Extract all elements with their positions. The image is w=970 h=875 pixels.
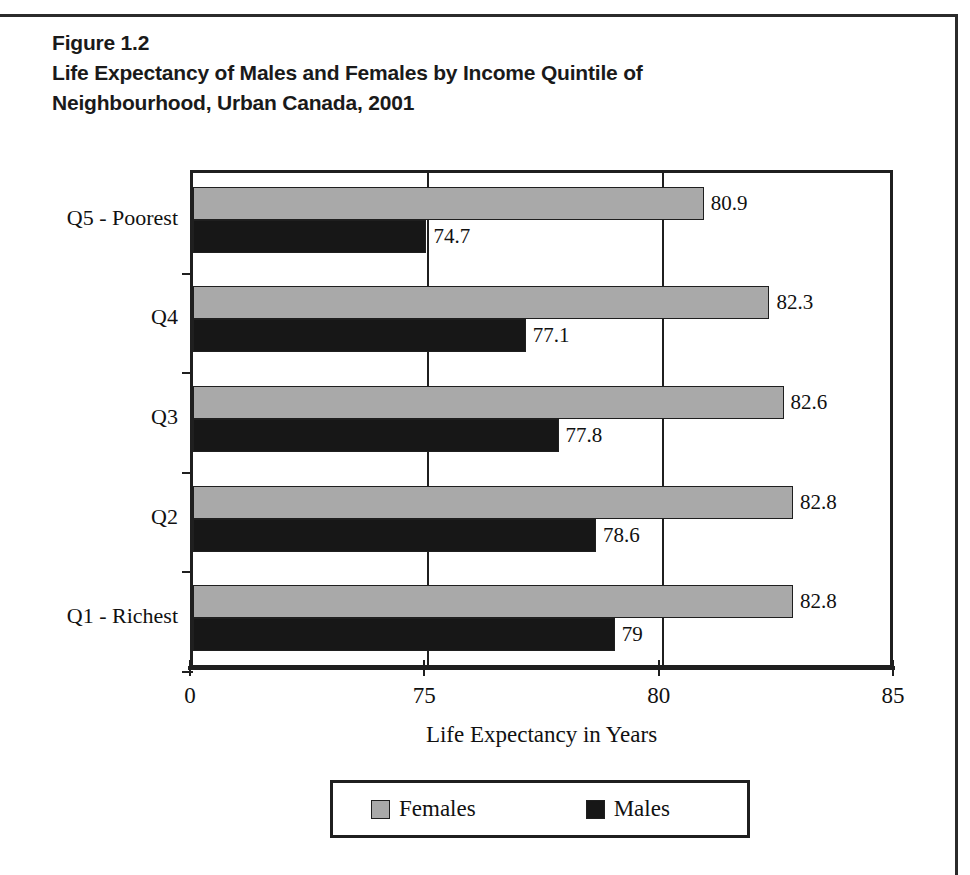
legend: Females Males bbox=[330, 780, 750, 838]
plot-frame: 80.974.782.377.182.677.882.878.682.879 bbox=[190, 170, 893, 668]
bar-male-5 bbox=[193, 618, 615, 651]
legend-label-males: Males bbox=[614, 796, 670, 822]
bar-value-male-5: 79 bbox=[615, 618, 643, 651]
y-axis-label-5: Q1 - Richest bbox=[0, 603, 178, 629]
bar-male-2 bbox=[193, 319, 526, 352]
x-tick-85 bbox=[892, 660, 894, 676]
y-axis-label-1: Q5 - Poorest bbox=[0, 205, 178, 231]
bar-value-female-3: 82.6 bbox=[784, 386, 828, 419]
bar-value-female-4: 82.8 bbox=[793, 486, 837, 519]
x-axis-line bbox=[188, 666, 895, 670]
y-tick-3 bbox=[182, 472, 193, 474]
y-tick-2 bbox=[182, 372, 193, 374]
bar-value-female-1: 80.9 bbox=[704, 187, 748, 220]
y-axis-label-3: Q3 bbox=[0, 404, 178, 430]
bar-value-male-3: 77.8 bbox=[559, 419, 603, 452]
y-tick-1 bbox=[182, 273, 193, 275]
bar-value-male-4: 78.6 bbox=[596, 519, 640, 552]
legend-item-females: Females bbox=[371, 796, 476, 822]
x-tick-label-85: 85 bbox=[882, 683, 905, 709]
bar-female-1 bbox=[193, 187, 704, 220]
bar-row-q4: 82.377.1 bbox=[193, 273, 890, 373]
y-tick-5 bbox=[182, 671, 193, 673]
legend-item-males: Males bbox=[586, 796, 670, 822]
x-tick-0 bbox=[189, 660, 191, 676]
bar-male-3 bbox=[193, 419, 559, 452]
x-tick-75 bbox=[423, 660, 425, 676]
y-axis-label-2: Q4 bbox=[0, 304, 178, 330]
bar-row-q1-richest: 82.879 bbox=[193, 571, 890, 671]
x-tick-label-80: 80 bbox=[647, 683, 670, 709]
legend-label-females: Females bbox=[399, 796, 476, 822]
y-tick-4 bbox=[182, 571, 193, 573]
bar-female-3 bbox=[193, 386, 784, 419]
y-axis-label-4: Q2 bbox=[0, 504, 178, 530]
chart-area: Q5 - PoorestQ4Q3Q2Q1 - Richest 80.974.78… bbox=[0, 0, 970, 875]
x-tick-80 bbox=[658, 660, 660, 676]
bar-row-q5-poorest: 80.974.7 bbox=[193, 173, 890, 273]
bar-value-female-5: 82.8 bbox=[793, 585, 837, 618]
bar-female-5 bbox=[193, 585, 793, 618]
legend-swatch-females-icon bbox=[371, 800, 390, 819]
bar-male-4 bbox=[193, 519, 596, 552]
bar-female-2 bbox=[193, 286, 769, 319]
legend-swatch-males-icon bbox=[586, 800, 605, 819]
bar-row-q2: 82.878.6 bbox=[193, 472, 890, 572]
bar-value-male-2: 77.1 bbox=[526, 319, 570, 352]
bar-value-female-2: 82.3 bbox=[769, 286, 813, 319]
bar-value-male-1: 74.7 bbox=[426, 220, 470, 253]
x-tick-label-0: 0 bbox=[184, 683, 196, 709]
x-axis-title: Life Expectancy in Years bbox=[190, 722, 893, 748]
x-tick-label-75: 75 bbox=[413, 683, 436, 709]
bar-female-4 bbox=[193, 486, 793, 519]
bar-row-q3: 82.677.8 bbox=[193, 372, 890, 472]
bar-male-1 bbox=[193, 220, 426, 253]
